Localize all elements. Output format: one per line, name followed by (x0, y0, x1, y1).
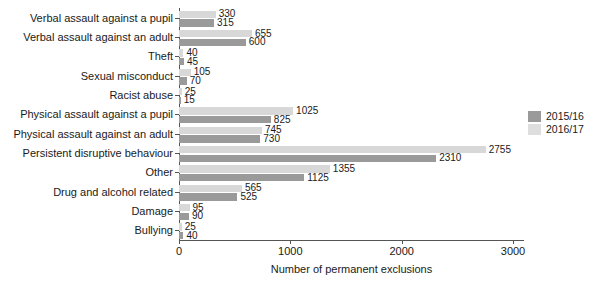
bar[interactable] (179, 155, 436, 162)
bar-value-label: 1025 (296, 106, 318, 116)
value-axis-tick-label: 3000 (501, 246, 525, 257)
bar-chart-figure: Verbal assault against a pupil330315Verb… (0, 0, 599, 282)
bar[interactable] (179, 39, 246, 46)
bar-value-label: 1355 (333, 164, 355, 174)
bar[interactable] (179, 174, 304, 181)
category-axis-label: Damage (131, 205, 173, 216)
bar[interactable] (179, 77, 187, 84)
chart-category-row: Persistent disruptive behaviour27552310 (179, 143, 513, 162)
legend-item-2016-17[interactable]: 2016/17 (528, 123, 584, 136)
category-axis-label: Verbal assault against an adult (23, 31, 173, 42)
value-axis-tick (290, 240, 291, 244)
legend-swatch-2015-16 (528, 111, 541, 122)
value-axis-tick-label: 0 (176, 246, 182, 257)
bar-value-label: 40 (186, 231, 197, 241)
bar[interactable] (179, 58, 184, 65)
chart-category-row: Other13551125 (179, 163, 513, 182)
bar-value-label: 2755 (489, 145, 511, 155)
bar-group-dark: 90 (179, 213, 203, 220)
value-axis-tick (513, 240, 514, 244)
bar[interactable] (179, 69, 191, 76)
bar[interactable] (179, 127, 262, 134)
chart-category-row: Racist abuse2515 (179, 85, 513, 104)
bar[interactable] (179, 30, 252, 37)
bar[interactable] (179, 135, 260, 142)
category-axis-label: Theft (148, 51, 173, 62)
bar[interactable] (179, 185, 242, 192)
category-axis-label: Sexual misconduct (81, 70, 173, 81)
category-axis-label: Other (145, 167, 173, 178)
chart-category-row: Damage9590 (179, 201, 513, 220)
chart-category-row: Bullying2540 (179, 221, 513, 240)
category-axis-label: Verbal assault against a pupil (30, 12, 173, 23)
chart-category-row: Verbal assault against a pupil330315 (179, 8, 513, 27)
bar-group-dark: 70 (179, 77, 201, 84)
bar-group-dark: 2310 (179, 155, 461, 162)
bar-group-light: 1025 (179, 107, 318, 114)
bar[interactable] (179, 223, 182, 230)
bar[interactable] (179, 11, 216, 18)
legend-label-2016-17: 2016/17 (546, 124, 584, 135)
category-axis-label: Bullying (134, 225, 173, 236)
value-axis-tick-label: 1000 (278, 246, 302, 257)
chart-category-row: Sexual misconduct10570 (179, 66, 513, 85)
legend-label-2015-16: 2015/16 (546, 111, 584, 122)
value-axis-tick (402, 240, 403, 244)
category-axis-label: Racist abuse (109, 89, 173, 100)
plot-area: Verbal assault against a pupil330315Verb… (179, 8, 513, 240)
bar-group-dark: 825 (179, 116, 291, 123)
bar-group-dark: 525 (179, 193, 257, 200)
bar[interactable] (179, 116, 271, 123)
chart-category-row: Physical assault against an adult745730 (179, 124, 513, 143)
category-axis-label: Physical assault against an adult (13, 128, 173, 139)
legend-swatch-2016-17 (528, 124, 541, 135)
bar[interactable] (179, 193, 237, 200)
x-axis-title: Number of permanent exclusions (179, 263, 524, 275)
chart-category-row: Physical assault against a pupil1025825 (179, 105, 513, 124)
bar-group-dark: 15 (179, 97, 195, 104)
bar[interactable] (179, 232, 183, 239)
category-axis-label: Drug and alcohol related (53, 186, 173, 197)
bar[interactable] (179, 49, 183, 56)
bar[interactable] (179, 19, 214, 26)
legend-item-2015-16[interactable]: 2015/16 (528, 110, 584, 123)
value-axis-tick-label: 2000 (389, 246, 413, 257)
value-axis-line (179, 240, 524, 241)
category-axis-label: Persistent disruptive behaviour (23, 147, 173, 158)
bar-group-dark: 40 (179, 232, 198, 239)
bar[interactable] (179, 88, 182, 95)
bar-group-dark: 45 (179, 58, 198, 65)
chart-category-row: Verbal assault against an adult655600 (179, 27, 513, 46)
chart-category-row: Theft4045 (179, 47, 513, 66)
bar-group-dark: 1125 (179, 174, 329, 181)
bar-group-dark: 600 (179, 39, 265, 46)
bar[interactable] (179, 213, 189, 220)
chart-category-row: Drug and alcohol related565525 (179, 182, 513, 201)
bar-group-dark: 315 (179, 19, 234, 26)
category-axis-label: Physical assault against a pupil (20, 109, 173, 120)
bar[interactable] (179, 204, 190, 211)
bar-group-dark: 730 (179, 135, 280, 142)
bar-group-light: 2755 (179, 146, 511, 153)
bar[interactable] (179, 97, 181, 104)
value-axis-tick (179, 240, 180, 244)
chart-legend: 2015/16 2016/17 (528, 110, 584, 136)
